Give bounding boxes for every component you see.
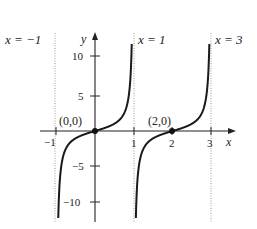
asymptote-label-x-3: x = 3	[214, 32, 243, 47]
x-tick-label-3: 3	[207, 137, 213, 149]
point-label-origin: (0,0)	[59, 114, 82, 128]
point-label-2-0: (2,0)	[148, 114, 171, 128]
point-origin	[92, 128, 98, 134]
x-tick-label-1: 1	[131, 137, 137, 149]
x-tick-label-minus-1: −1	[44, 136, 56, 148]
y-axis-arrow-icon	[92, 32, 98, 40]
x-tick-label-2: 2	[169, 137, 175, 149]
x-axis-label: x	[225, 135, 232, 149]
tangent-graph: x = −1 x = 1 x = 3 y x 10 5 −5 −10 −1 1 …	[0, 0, 257, 229]
asymptote-label-x-minus-1: x = −1	[4, 32, 41, 47]
y-axis-label: y	[80, 32, 87, 46]
y-tick-label-10: 10	[72, 50, 84, 62]
x-axis-arrow-icon	[228, 128, 236, 134]
asymptote-label-x-1: x = 1	[137, 32, 166, 47]
point-2-0	[169, 128, 175, 134]
y-tick-label-minus-10: −10	[63, 196, 81, 208]
y-tick-label-5: 5	[78, 90, 84, 102]
y-tick-label-minus-5: −5	[72, 160, 84, 172]
